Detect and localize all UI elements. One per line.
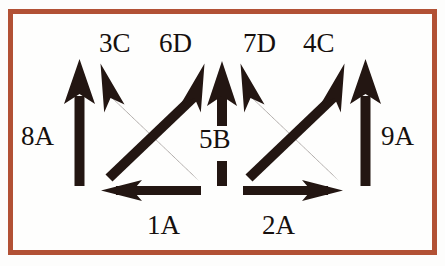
arrow-1A-shape	[101, 180, 201, 201]
arrow-6D-shape	[106, 64, 205, 182]
arrow-label-7D: 7D	[243, 30, 276, 57]
arrow-label-6D: 6D	[159, 30, 192, 57]
arrow-2A-shape	[243, 180, 343, 201]
diagram-canvas: 3C 6D 7D 4C 8A 9A 5B 1A 2A	[0, 0, 445, 266]
arrow-label-9A: 9A	[381, 123, 414, 150]
arrow-label-5B: 5B	[199, 126, 231, 153]
arrow-label-4C: 4C	[303, 30, 335, 57]
arrow-label-1A: 1A	[147, 212, 180, 239]
arrow-7D-shape	[241, 64, 340, 182]
arrow-label-3C: 3C	[99, 30, 131, 57]
arrow-9A-shape	[350, 59, 381, 186]
arrow-label-2A: 2A	[262, 212, 295, 239]
arrow-8A-shape	[64, 59, 95, 186]
arrow-4C-shape	[246, 64, 345, 182]
arrow-label-8A: 8A	[21, 123, 54, 150]
arrow-3C-shape	[101, 64, 200, 182]
